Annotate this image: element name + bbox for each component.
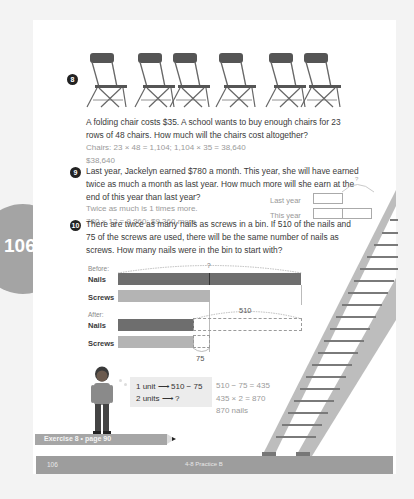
nails-label-after: Nails xyxy=(88,321,106,330)
chairs-illustration xyxy=(85,52,355,108)
unknown-label: ? xyxy=(355,176,358,182)
problem-10-badge: 10 xyxy=(70,220,81,231)
ladder-illustration xyxy=(262,190,398,456)
total-unknown-label: ? xyxy=(207,262,211,269)
screws-label-after: Screws xyxy=(88,339,114,348)
footer-page-number: 106 xyxy=(47,461,58,468)
problem-8-badge: 8 xyxy=(67,74,78,85)
chair-icon xyxy=(87,53,127,107)
nails-bar-after xyxy=(118,319,194,331)
screws-bar-before xyxy=(118,290,210,302)
used-nails-label: 510 xyxy=(239,306,252,315)
exercise-reference-label: Exercise 8 • page 90 xyxy=(44,435,111,442)
thought-dot xyxy=(124,383,127,386)
screws-label-before: Screws xyxy=(88,293,114,302)
chair-icon xyxy=(216,53,256,107)
used-screws-label: 75 xyxy=(196,354,204,363)
problem-8-answer: Chairs: 23 × 48 = 1,104; 1,104 × 35 = 38… xyxy=(86,142,246,167)
footer-section-title: 4-8 Practice B xyxy=(185,461,223,467)
thought-bubble: 1 unit ⟶ 510 − 75 2 units ⟶ ? xyxy=(130,377,212,407)
chair-icon xyxy=(170,53,210,107)
nails-bar-divider xyxy=(209,273,210,285)
screws-bar-after xyxy=(118,336,194,348)
pencil-lead xyxy=(172,437,176,441)
problem-8-question: A folding chair costs $35. A school want… xyxy=(86,116,341,142)
nails-label-before: Nails xyxy=(88,275,106,284)
page-tab-number: 106 xyxy=(4,235,36,257)
chair-icon xyxy=(301,53,341,107)
problem-9-badge: 9 xyxy=(70,167,81,178)
student-character xyxy=(88,366,116,436)
chair-icon xyxy=(266,53,306,107)
before-label: Before: xyxy=(88,265,109,272)
thought-dot xyxy=(119,379,122,382)
chair-icon xyxy=(135,53,175,107)
after-label: After: xyxy=(88,311,104,318)
